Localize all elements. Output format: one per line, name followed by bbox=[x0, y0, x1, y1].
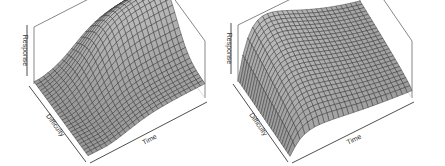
surface-plot-left: TimeDifficultyResponse bbox=[0, 0, 222, 166]
x-axis-label: Time bbox=[141, 133, 158, 146]
z-axis-label: Response bbox=[225, 33, 233, 65]
z-axis-label: Response bbox=[21, 35, 29, 67]
surface-chart-left: TimeDifficultyResponse bbox=[0, 0, 222, 166]
surface-plot-right: TimeDifficultyResponse bbox=[222, 0, 445, 166]
surface-chart-right: TimeDifficultyResponse bbox=[222, 0, 445, 166]
